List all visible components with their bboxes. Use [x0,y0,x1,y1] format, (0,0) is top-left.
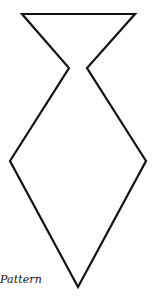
tie-outline-shape [10,14,146,287]
pattern-caption: Pattern [0,273,42,286]
tie-pattern-diagram [0,0,155,296]
